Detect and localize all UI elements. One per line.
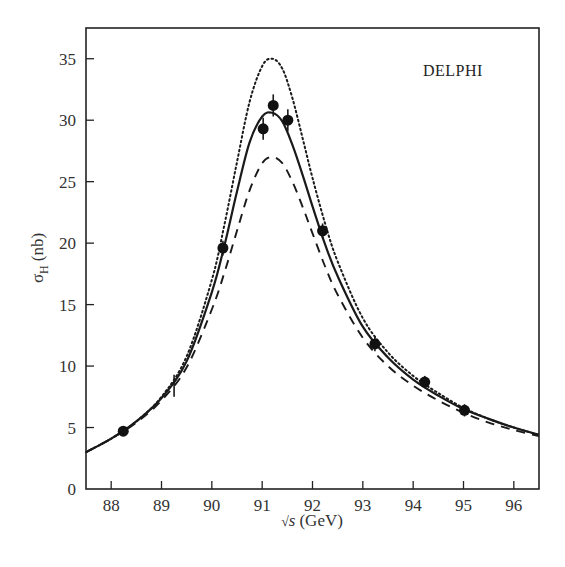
x-axis-title: √s(GeV) xyxy=(281,511,343,530)
y-tick-label: 15 xyxy=(59,296,76,315)
y-axis-title: σH(nb) xyxy=(28,233,51,283)
x-tick-label: 93 xyxy=(354,496,371,515)
x-tick-label: 96 xyxy=(505,496,522,515)
point-marker xyxy=(282,115,293,126)
y-tick-label: 25 xyxy=(59,173,76,192)
y-tick-label: 35 xyxy=(59,50,76,69)
y-tick-label: 20 xyxy=(59,234,76,253)
point-marker xyxy=(459,405,470,416)
y-axis-unit: (nb) xyxy=(28,233,47,261)
point-marker xyxy=(268,100,279,111)
y-tick-label: 5 xyxy=(68,419,77,438)
x-tick-label: 91 xyxy=(254,496,271,515)
x-axis-unit: (GeV) xyxy=(299,511,342,530)
x-tick-label: 95 xyxy=(455,496,472,515)
y-tick-label: 0 xyxy=(68,480,77,499)
svg-text:σH(nb): σH(nb) xyxy=(28,233,51,283)
point-marker xyxy=(217,243,228,254)
point-marker xyxy=(118,426,129,437)
point-marker xyxy=(419,377,430,388)
sigma-symbol: σ xyxy=(28,274,47,283)
x-tick-label: 90 xyxy=(203,496,220,515)
point-marker xyxy=(317,225,328,236)
dotted-curve xyxy=(86,59,539,452)
plot-frame xyxy=(86,28,539,489)
delphi-annotation: DELPHI xyxy=(423,62,483,79)
y-axis-ticks: 05101520253035 xyxy=(59,50,94,499)
y-tick-label: 30 xyxy=(59,111,76,130)
curves xyxy=(86,59,539,452)
data-point xyxy=(282,109,293,131)
x-tick-label: 94 xyxy=(405,496,423,515)
x-axis-variable: s xyxy=(289,511,296,530)
y-tick-label: 10 xyxy=(59,357,76,376)
point-marker xyxy=(258,123,269,134)
cross-section-chart: 888990919293949596 05101520253035 DELPHI… xyxy=(0,0,565,567)
point-marker xyxy=(369,338,380,349)
svg-text:√s(GeV): √s(GeV) xyxy=(281,511,343,530)
x-tick-label: 88 xyxy=(103,496,120,515)
solid-curve xyxy=(86,112,539,452)
data-point xyxy=(118,426,129,437)
x-axis-ticks: 888990919293949596 xyxy=(103,481,523,515)
sigma-subscript: H xyxy=(37,265,51,274)
dashed-curve xyxy=(86,157,539,452)
x-tick-label: 89 xyxy=(153,496,170,515)
